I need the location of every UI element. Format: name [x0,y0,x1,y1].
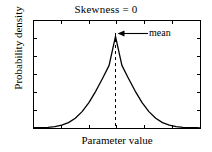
y-axis-ticks-right [197,39,201,111]
skewness-normal-distribution-figure: Skewness = 0 Probability density Paramet… [0,0,212,152]
x-axis-ticks [62,125,173,129]
plot-frame [34,21,201,129]
plot-area [0,0,212,152]
x-axis-ticks-top [62,21,173,25]
mean-annotation-label: mean [149,27,171,39]
mean-arrow-head-icon [118,31,125,37]
y-axis-ticks [34,39,38,111]
density-curve [35,36,200,128]
